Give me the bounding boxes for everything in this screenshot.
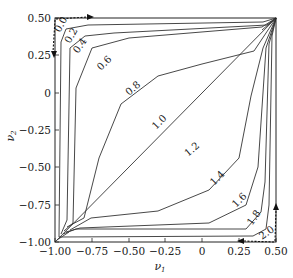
contour-chart: 0.0 0.2 0.4 0.6 0.8 1.0 1.2 1.4 1.6 1.8 …	[0, 0, 293, 278]
arrow-left-icon	[237, 238, 244, 244]
contour-label-0.8: 0.8	[123, 79, 142, 98]
x-tick-label: −0.75	[76, 245, 108, 257]
x-tick-label: 0.25	[227, 245, 250, 257]
y-tick-label: −0.75	[19, 199, 51, 211]
x-tick-label: −0.25	[149, 245, 181, 257]
y-tick-label: −0.25	[19, 124, 51, 136]
contour-label-1.8: 1.8	[245, 208, 263, 227]
x-tick-label: −0.50	[113, 245, 145, 257]
x-tick-labels: −1.00 −0.75 −0.50 −0.25 0 0.25 0.50	[39, 245, 288, 257]
y-axis-label: ν2	[4, 130, 18, 142]
contour-label-1.0: 1.0	[150, 112, 169, 131]
y-tick-label: 0.50	[28, 12, 51, 24]
contour-label-0.6: 0.6	[95, 53, 114, 72]
arrow-right-icon	[87, 14, 94, 20]
arrow-down-icon	[51, 51, 57, 58]
contour-label-1.2: 1.2	[182, 140, 201, 159]
y-tick-labels: 0.50 0.25 0 −0.25 −0.50 −0.75 −1.00	[19, 12, 51, 248]
contour-1.0	[55, 18, 276, 242]
y-tick-label: 0.25	[28, 49, 51, 61]
contour-lines	[55, 18, 276, 242]
contour-label-1.6: 1.6	[230, 190, 249, 209]
arrow-up-icon	[273, 203, 279, 210]
y-tick-label: 0	[44, 87, 51, 99]
x-tick-label: 0.50	[264, 245, 287, 257]
contour-labels: 0.0 0.2 0.4 0.6 0.8 1.0 1.2 1.4 1.6 1.8 …	[52, 15, 276, 242]
x-tick-label: 0	[199, 245, 206, 257]
contour-label-2.0: 2.0	[257, 224, 276, 242]
y-tick-label: −0.50	[19, 161, 51, 173]
y-tick-label: −1.00	[19, 236, 51, 248]
contour-label-1.4: 1.4	[208, 168, 227, 187]
x-axis-label: ν1	[154, 260, 165, 274]
